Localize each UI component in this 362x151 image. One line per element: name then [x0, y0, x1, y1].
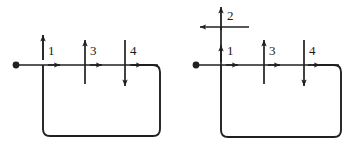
left-start-dot	[13, 62, 20, 69]
right-label-3: 3	[269, 43, 276, 58]
right-loop-path	[221, 65, 341, 137]
left-diagram: 1 3 4	[13, 35, 160, 136]
left-loop-path	[43, 65, 160, 136]
right-start-dot	[193, 62, 200, 69]
diagram-canvas: 1 3 4 2 1 3 4	[0, 0, 362, 151]
right-label-1: 1	[227, 43, 234, 58]
right-label-2: 2	[227, 8, 234, 23]
left-label-3: 3	[90, 43, 97, 58]
left-label-1: 1	[48, 43, 55, 58]
diagram-figure: 1 3 4 2 1 3 4	[0, 0, 362, 151]
right-label-4: 4	[309, 43, 316, 58]
left-label-4: 4	[130, 43, 137, 58]
right-diagram: 2 1 3 4	[193, 7, 341, 137]
